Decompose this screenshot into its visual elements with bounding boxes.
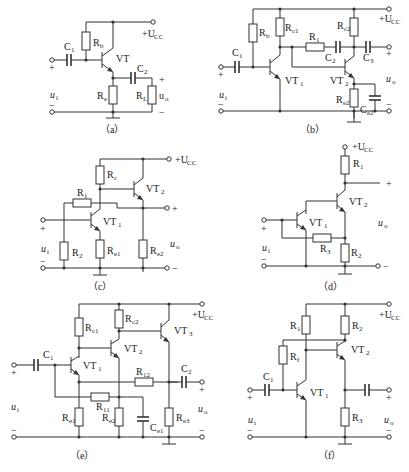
resistor-re1: [96, 240, 104, 258]
svg-text:i: i: [254, 419, 256, 427]
resistor-re2: [139, 240, 147, 258]
svg-text:u: u: [11, 401, 16, 412]
svg-text:+: +: [218, 69, 224, 80]
svg-text:R: R: [107, 245, 114, 256]
svg-text:R: R: [102, 412, 109, 423]
svg-text:3: 3: [370, 57, 374, 65]
svg-text:+: +: [159, 74, 165, 85]
svg-text:2: 2: [332, 57, 336, 65]
resistor-rc2: [350, 18, 358, 36]
resistor-r1: [341, 156, 349, 174]
svg-text:c1: c1: [92, 327, 99, 335]
svg-text:VT: VT: [330, 75, 343, 86]
svg-text:u: u: [248, 414, 253, 425]
resistor-r1: [306, 43, 324, 51]
caption-c: （c）: [88, 281, 112, 292]
svg-text:1: 1: [71, 46, 75, 54]
svg-text:1: 1: [98, 365, 102, 373]
svg-text:i: i: [56, 94, 58, 102]
svg-text:o: o: [176, 243, 180, 251]
svg-text:1: 1: [84, 192, 88, 200]
svg-text:e1: e1: [157, 427, 164, 435]
svg-text:1: 1: [297, 325, 301, 333]
svg-text:−: −: [261, 254, 267, 265]
supply-terminal: [151, 20, 155, 24]
svg-text:R: R: [85, 322, 92, 333]
caption-d: （d）: [318, 281, 343, 292]
svg-text:R: R: [290, 320, 297, 331]
svg-text:u: u: [198, 403, 203, 414]
svg-text:i: i: [47, 248, 49, 256]
svg-text:VT: VT: [116, 53, 129, 64]
svg-text:i: i: [225, 94, 227, 102]
svg-text:c1: c1: [292, 27, 299, 35]
svg-text:VT: VT: [349, 196, 362, 207]
svg-text:C: C: [263, 371, 270, 382]
svg-text:−: −: [159, 107, 165, 118]
svg-text:R: R: [125, 313, 132, 324]
svg-text:VT: VT: [174, 325, 187, 336]
svg-text:c2: c2: [132, 318, 139, 326]
svg-text:2: 2: [188, 368, 192, 376]
svg-text:R: R: [290, 351, 297, 362]
svg-text:R: R: [97, 90, 104, 101]
svg-text:1: 1: [325, 392, 329, 400]
resistor-re3: [165, 408, 173, 426]
svg-text:f: f: [297, 356, 300, 364]
svg-text:−: −: [383, 261, 389, 272]
svg-text:e2: e2: [157, 250, 164, 258]
svg-text:2: 2: [161, 188, 165, 196]
resistor-re1: [75, 408, 83, 426]
resistor-re2: [350, 89, 358, 107]
svg-text:R: R: [72, 247, 79, 258]
resistor-r2: [341, 244, 349, 262]
resistor-rc2: [115, 310, 123, 328]
svg-text:C: C: [325, 52, 332, 63]
svg-text:R: R: [336, 94, 343, 105]
svg-text:e2: e2: [343, 99, 350, 107]
svg-text:R: R: [353, 158, 360, 169]
svg-text:3: 3: [359, 417, 363, 425]
svg-text:VT: VT: [146, 183, 159, 194]
circuit-d: +U CC R 1 + VT 2 + u i VT 1: [261, 141, 392, 292]
svg-text:R: R: [150, 245, 157, 256]
resistor-re: [109, 86, 117, 104]
svg-text:2: 2: [345, 80, 349, 88]
svg-text:i: i: [268, 247, 270, 255]
svg-text:L: L: [143, 95, 147, 103]
caption-f: （f）: [318, 450, 341, 461]
svg-text:2: 2: [364, 201, 368, 209]
svg-text:−: −: [386, 99, 392, 110]
svg-text:2: 2: [366, 349, 370, 357]
svg-text:VT: VT: [310, 387, 323, 398]
resistor-r2: [60, 242, 68, 260]
svg-text:+: +: [172, 203, 178, 214]
svg-text:R: R: [96, 401, 103, 412]
resistor-r3: [313, 234, 331, 242]
svg-text:CC: CC: [391, 314, 401, 322]
svg-text:u: u: [50, 89, 55, 100]
svg-text:3: 3: [189, 330, 193, 338]
svg-text:R: R: [62, 412, 69, 423]
svg-text:u: u: [159, 90, 164, 101]
svg-text:−: −: [218, 99, 224, 110]
svg-text:+: +: [11, 367, 17, 378]
caption-b: （b）: [300, 124, 325, 135]
svg-text:u: u: [262, 242, 267, 253]
svg-text:R: R: [176, 412, 183, 423]
svg-text:R: R: [352, 320, 359, 331]
svg-text:b: b: [266, 32, 270, 40]
circuit-b: +U CC R b R c1 C 1 + u i VT 1: [218, 7, 401, 135]
resistor-re2: [115, 408, 123, 426]
svg-text:CC: CC: [154, 33, 164, 41]
circuit-a: +U CC R b C 1 + u i VT R e: [49, 20, 169, 135]
svg-text:2: 2: [79, 252, 83, 260]
svg-text:o: o: [392, 78, 396, 86]
svg-text:+: +: [49, 62, 55, 73]
resistor-rb: [82, 32, 90, 50]
resistor-rc1: [75, 318, 83, 336]
svg-text:12: 12: [143, 371, 151, 379]
resistor-r3: [341, 408, 349, 426]
svg-text:o: o: [204, 408, 208, 416]
svg-text:c2: c2: [344, 25, 351, 33]
